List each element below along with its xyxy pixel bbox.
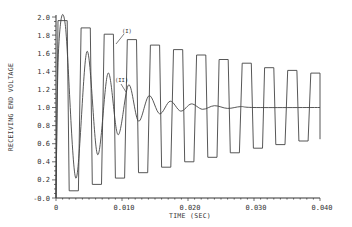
annotation-i-arrow bbox=[116, 34, 124, 44]
y-tick-label: 1.8 bbox=[37, 32, 50, 40]
annotations: (I)(II) bbox=[115, 28, 132, 92]
x-tick-label: 0.010 bbox=[113, 204, 134, 212]
series-i-line bbox=[56, 21, 320, 198]
y-tick-label: -0.0 bbox=[33, 195, 50, 203]
y-tick-label: 1.6 bbox=[37, 50, 50, 58]
y-tick-label: 0.2 bbox=[37, 176, 50, 184]
y-tick-label: 1.0 bbox=[37, 104, 50, 112]
x-tick-label: 0 bbox=[54, 204, 58, 212]
annotation-ii: (II) bbox=[115, 77, 128, 83]
x-axis-label: TIME (SEC) bbox=[169, 212, 211, 220]
annotation-ii-arrow bbox=[121, 84, 126, 92]
y-axis: -0.00.20.40.60.81.01.21.41.61.82.0 bbox=[33, 14, 56, 203]
x-tick-label: 0.040 bbox=[311, 204, 332, 212]
x-tick-label: 0.020 bbox=[179, 204, 200, 212]
x-axis: 00.0100.0200.0300.040 bbox=[54, 198, 333, 212]
y-tick-label: 1.4 bbox=[37, 68, 50, 76]
y-axis-label: RECEIVING END VOLTAGE bbox=[7, 63, 15, 151]
chart: -0.00.20.40.60.81.01.21.41.61.82.0 00.01… bbox=[0, 0, 352, 227]
plot-area bbox=[56, 15, 320, 198]
annotation-i: (I) bbox=[122, 28, 132, 34]
y-tick-label: 2.0 bbox=[37, 14, 50, 22]
series-ii-line bbox=[56, 15, 320, 198]
y-tick-label: 0.8 bbox=[37, 122, 50, 130]
y-tick-label: 1.2 bbox=[37, 86, 50, 94]
x-tick-label: 0.030 bbox=[245, 204, 266, 212]
y-tick-label: 0.6 bbox=[37, 140, 50, 148]
y-tick-label: 0.4 bbox=[37, 158, 50, 166]
